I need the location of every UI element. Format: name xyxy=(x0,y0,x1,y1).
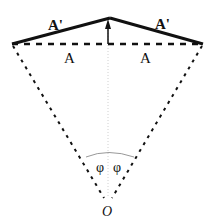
label-origin: O xyxy=(102,204,112,219)
label-angle-left: φ xyxy=(96,160,104,175)
right-radius-line xyxy=(112,46,202,198)
label-bottom-right: A xyxy=(140,50,151,66)
angle-arc xyxy=(86,153,134,158)
label-angle-right: φ xyxy=(113,160,121,175)
left-radius-line xyxy=(13,46,104,198)
label-top-right: A' xyxy=(155,16,170,32)
label-top-left: A' xyxy=(48,17,63,33)
diagram-canvas: A' A' A A φ φ O xyxy=(0,0,213,223)
label-bottom-left: A xyxy=(64,50,75,66)
